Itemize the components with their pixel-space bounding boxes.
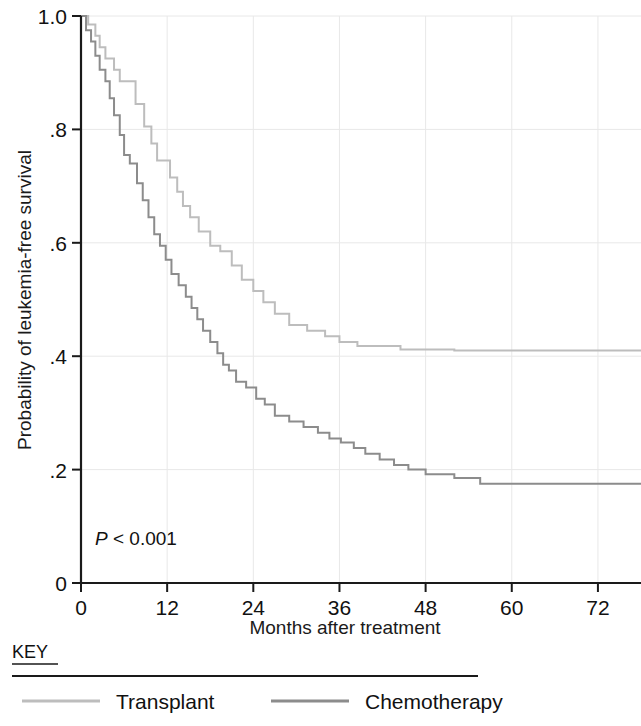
y-tick-label: .4	[49, 345, 67, 368]
y-tick-label: .2	[49, 459, 67, 482]
x-tick-label: 48	[414, 596, 437, 619]
legend-title: KEY	[12, 642, 48, 662]
y-tick-label: 1.0	[38, 5, 67, 28]
x-tick-label: 60	[500, 596, 523, 619]
legend-label-chemotherapy: Chemotherapy	[365, 690, 503, 713]
survival-chart: 1.0.8.6.4.20 0122436486072 Probability o…	[0, 0, 641, 726]
p-value-text: < 0.001	[108, 528, 177, 549]
y-axis-title: Probability of leukemia-free survival	[14, 150, 35, 450]
x-tick-label: 24	[242, 596, 266, 619]
p-symbol: P	[95, 528, 108, 549]
x-tick-label: 72	[586, 596, 609, 619]
legend-label-transplant: Transplant	[116, 690, 215, 713]
y-tick-label: 0	[55, 572, 67, 595]
kaplan-meier-figure: 1.0.8.6.4.20 0122436486072 Probability o…	[0, 0, 641, 726]
x-tick-label: 12	[155, 596, 178, 619]
p-value-annotation: P < 0.001	[95, 528, 177, 549]
y-tick-label: .6	[49, 232, 67, 255]
x-tick-label: 0	[75, 596, 87, 619]
y-tick-label: .8	[49, 118, 67, 141]
x-tick-label: 36	[328, 596, 351, 619]
x-axis-title: Months after treatment	[249, 617, 441, 638]
